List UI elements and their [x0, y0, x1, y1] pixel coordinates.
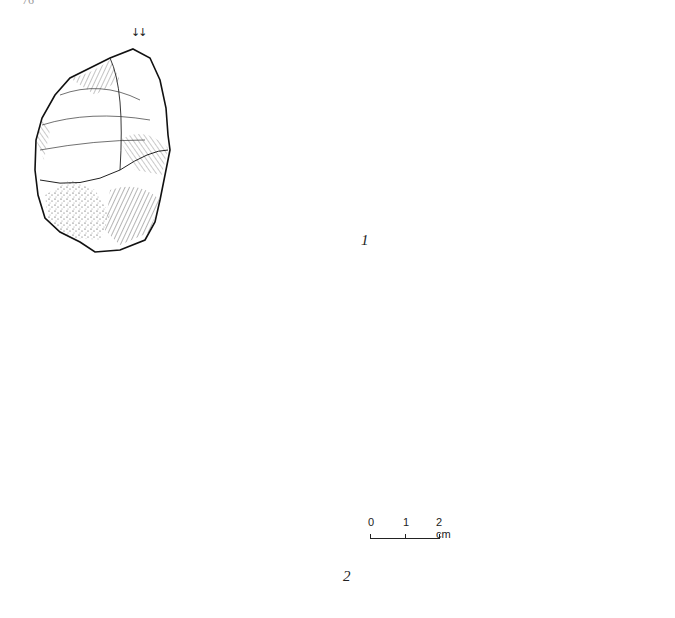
figure-label-1: 1: [361, 232, 369, 249]
blow-direction-arrows: ↓↓: [131, 26, 145, 39]
scale-tick-1: 1: [403, 516, 409, 528]
scale-tick-0: 0: [368, 516, 374, 528]
scale-bar: 0 1 2 cm: [368, 516, 458, 546]
lithic-plate: [0, 0, 675, 618]
figure-1-dorsal-face: [35, 49, 170, 252]
figure-label-2: 2: [343, 568, 351, 585]
scale-mid-tick: [405, 534, 406, 539]
